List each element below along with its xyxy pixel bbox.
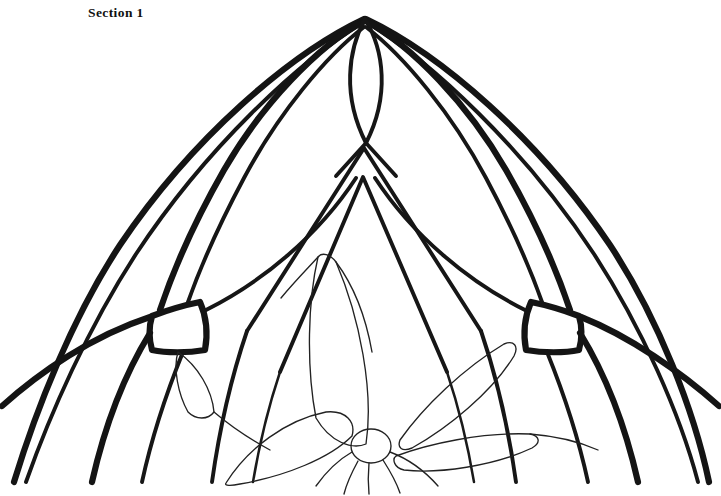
- inner-arch-limb-left: [212, 331, 247, 482]
- inner-arch-limb-right: [481, 331, 516, 482]
- secondary-arch-left-lower: [142, 352, 183, 482]
- stamen-1: [344, 461, 358, 494]
- leaf-left-small: [176, 352, 214, 418]
- stamen-4: [390, 452, 438, 486]
- secondary-arch-right: [366, 27, 542, 302]
- inner-pointed-arch-inner: [280, 177, 447, 372]
- pattern-page: Section 1: [0, 0, 721, 496]
- flower-stamens: [316, 452, 438, 494]
- stamen-3: [383, 460, 400, 493]
- petal-left-large: [226, 412, 353, 486]
- main-arch-heavy-right: [366, 21, 570, 310]
- main-arch-heavy-left: [160, 21, 364, 310]
- secondary-arch-left: [188, 27, 364, 302]
- cross-band-right: [581, 317, 719, 406]
- outer-arch-inner-right: [366, 22, 698, 482]
- outer-arch-outermost-right: [366, 19, 709, 482]
- inner-arch-limb-inner-right: [447, 372, 474, 482]
- stamen-2: [368, 463, 369, 494]
- inner-arch-limb-inner-left: [253, 372, 280, 482]
- main-arch-heavy-right-lower: [580, 333, 638, 482]
- petal-right-extension: [530, 434, 598, 450]
- outer-arch-inner-left: [26, 22, 364, 482]
- secondary-arch-right-lower: [547, 352, 588, 482]
- main-arch-heavy-left-lower: [92, 333, 150, 482]
- stained-glass-pattern-drawing: [0, 0, 721, 496]
